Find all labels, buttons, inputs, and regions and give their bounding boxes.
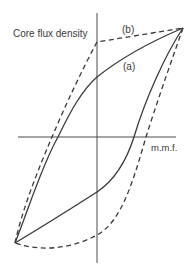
- curve-b: [15, 28, 183, 248]
- curve-a: [15, 28, 183, 243]
- curve-a-upper-branch: [15, 28, 183, 243]
- hysteresis-diagram: Core flux density m.m.f. (b) (a): [0, 0, 196, 273]
- curve-b-upper-branch: [15, 28, 183, 243]
- curve-a-label: (a): [123, 62, 135, 72]
- y-axis-label: Core flux density: [13, 29, 87, 39]
- curve-b-label: (b): [122, 25, 134, 35]
- curve-a-lower-branch: [15, 28, 183, 243]
- x-axis-label: m.m.f.: [151, 143, 177, 153]
- curve-b-lower-branch: [15, 28, 183, 248]
- diagram-canvas: [0, 0, 196, 273]
